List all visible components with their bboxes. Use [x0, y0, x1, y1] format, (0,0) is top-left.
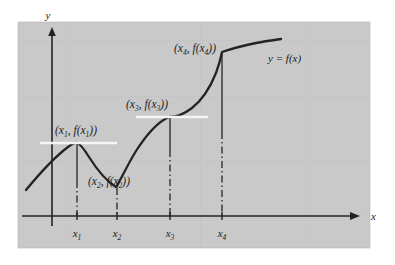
p3-close: )): [159, 98, 168, 111]
p2-close: )): [121, 175, 130, 188]
curve-arg: (x): [289, 52, 302, 65]
tick-label-x2-sub: 2: [118, 233, 122, 242]
curve-eq: =: [273, 52, 286, 64]
curve-equation-label: y = f(x): [267, 52, 301, 65]
tick-label-x3-sub: 3: [170, 233, 175, 242]
p1-close: )): [88, 124, 97, 137]
y-axis-label: y: [45, 9, 51, 21]
x-axis-label: x: [370, 210, 376, 222]
graph-canvas: y x (x1, f: [0, 0, 395, 265]
figure-container: y x (x1, f: [0, 0, 395, 265]
tick-label-x1-sub: 1: [78, 233, 82, 242]
tick-label-x4-sub: 4: [223, 233, 227, 242]
p4-close: )): [207, 42, 216, 55]
